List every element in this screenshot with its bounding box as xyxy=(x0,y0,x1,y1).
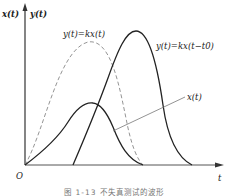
curve-delayed-output xyxy=(73,31,192,165)
curve-ideal-output xyxy=(25,42,143,165)
y-axis-label-output: y(t) xyxy=(30,10,47,19)
y-axis-arrow-icon xyxy=(23,3,28,11)
curve-label-input-signal: x(t) xyxy=(187,93,202,102)
x-axis-arrow-icon xyxy=(215,163,224,168)
curve-label-delayed-output: y(t)=kx(t−t0) xyxy=(156,42,214,51)
y-axis-label-input: x(t) xyxy=(2,10,19,19)
x-label-leader xyxy=(113,97,185,131)
origin-label: O xyxy=(16,172,23,181)
figure-caption: 图 1-13 不失真测试的波形 xyxy=(0,186,228,196)
curve-label-ideal-output: y(t)=kx(t) xyxy=(63,30,105,39)
x-axis-label: t xyxy=(218,174,221,183)
curve-input-signal xyxy=(25,103,143,165)
